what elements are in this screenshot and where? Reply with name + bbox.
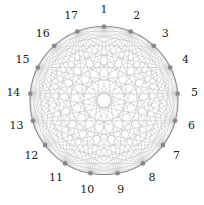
node-3 <box>152 44 157 49</box>
edge <box>45 31 131 145</box>
node-4 <box>168 65 173 70</box>
node-label: 9 <box>117 183 124 196</box>
node-13 <box>31 118 36 123</box>
node-label: 8 <box>148 171 155 184</box>
node-16 <box>52 44 57 49</box>
node-label: 13 <box>9 119 23 132</box>
node-17 <box>75 29 80 34</box>
node-7 <box>161 143 166 148</box>
node-label: 14 <box>6 86 20 99</box>
node-15 <box>35 65 40 70</box>
node-5 <box>175 91 180 96</box>
edge <box>77 31 143 163</box>
edge <box>90 46 153 173</box>
edge <box>33 68 170 121</box>
node-8 <box>141 161 146 166</box>
node-label: 11 <box>49 171 63 184</box>
node-label: 17 <box>64 9 78 22</box>
node-12 <box>43 143 48 148</box>
edge <box>90 94 177 174</box>
edge <box>65 31 131 163</box>
node-label: 6 <box>188 119 195 132</box>
node-label: 3 <box>162 27 169 40</box>
node-label: 2 <box>133 9 140 22</box>
edge <box>45 94 178 145</box>
node-label: 15 <box>16 53 30 66</box>
edge <box>143 145 163 163</box>
edge <box>90 27 104 174</box>
node-label: 5 <box>191 86 198 99</box>
node-label: 10 <box>80 183 94 196</box>
edge <box>77 31 170 67</box>
graph-diagram: 1234567891011121314151617 <box>0 0 204 205</box>
node-2 <box>128 29 133 34</box>
node-label: 1 <box>101 3 108 16</box>
edge <box>77 31 163 145</box>
node-6 <box>173 118 178 123</box>
edge <box>38 68 175 121</box>
node-label: 12 <box>24 149 38 162</box>
edge <box>30 94 117 174</box>
nodes <box>28 24 180 175</box>
node-1 <box>102 24 107 29</box>
edge <box>30 94 163 145</box>
node-11 <box>63 161 68 166</box>
node-label: 7 <box>173 149 180 162</box>
node-label: 16 <box>36 27 50 40</box>
node-9 <box>115 171 120 176</box>
edge <box>45 46 54 145</box>
node-10 <box>88 171 93 176</box>
node-14 <box>28 91 33 96</box>
edge <box>45 145 65 163</box>
complete-graph-k17: 1234567891011121314151617 <box>0 0 204 205</box>
edge <box>154 46 163 145</box>
edge <box>38 31 131 67</box>
edge <box>104 27 118 174</box>
edges <box>30 27 177 174</box>
node-label: 4 <box>182 53 189 66</box>
edge <box>54 46 117 173</box>
